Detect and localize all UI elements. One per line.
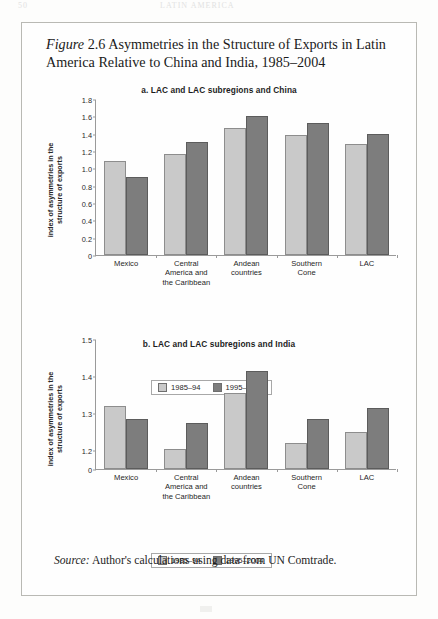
page-bottom-mark	[200, 606, 212, 612]
x-axis-category-label: LAC	[337, 473, 397, 482]
x-tick-mark	[156, 469, 157, 472]
running-head-title: LATIN AMERICA	[160, 1, 235, 10]
chart-b-y-axis-label-line2: structure of exports	[55, 344, 64, 494]
running-head: 50 LATIN AMERICA	[10, 1, 430, 13]
bar-series1	[104, 406, 126, 469]
bar-series2	[307, 123, 329, 255]
chart-b-ytick-mark-zero	[93, 470, 96, 471]
figure-number: 2.6	[88, 36, 106, 52]
chart-a-ytick-mark	[93, 256, 96, 257]
bar-group	[277, 340, 337, 469]
x-axis-category-label: Central America and the Caribbean	[156, 473, 216, 501]
bar-series1	[345, 144, 367, 255]
x-axis-category-label: Mexico	[96, 473, 156, 482]
bar-series2	[186, 142, 208, 255]
x-axis-category-label: Central America and the Caribbean	[156, 259, 216, 287]
bar-series1	[285, 443, 307, 469]
x-axis-category-label: Andean countries	[216, 259, 276, 278]
bar-series2	[246, 371, 268, 469]
bar-series2	[246, 116, 268, 255]
bar-group	[337, 340, 397, 469]
scanned-book-page: 50 LATIN AMERICA Figure 2.6 Asymmetries …	[0, 0, 438, 619]
bar-series2	[367, 408, 389, 469]
x-tick-mark	[216, 255, 217, 258]
bar-series2	[126, 177, 148, 255]
chart-a-title: a. LAC and LAC subregions and China	[22, 85, 416, 95]
chart-a-y-axis-label-line1: index of asymmetries in the	[46, 115, 55, 265]
x-tick-mark	[337, 469, 338, 472]
bar-series1	[345, 432, 367, 469]
chart-b-y-axis-label: index of asymmetries in the structure of…	[46, 344, 64, 494]
bar-group	[96, 340, 156, 469]
x-axis-category-label: LAC	[337, 259, 397, 268]
x-tick-mark	[156, 255, 157, 258]
bar-series2	[307, 419, 329, 469]
bar-series2	[186, 423, 208, 469]
bar-group	[96, 100, 156, 255]
x-axis-category-label: Andean countries	[216, 473, 276, 492]
bar-group	[216, 100, 276, 255]
chart-a-y-axis-label: index of asymmetries in the structure of…	[46, 115, 64, 265]
x-tick-mark	[397, 469, 398, 472]
bar-series2	[367, 134, 389, 255]
bar-series2	[126, 419, 148, 469]
bar-series1	[224, 128, 246, 255]
figure-box: Figure 2.6 Asymmetries in the Structure …	[21, 22, 417, 596]
page-folio-number: 50	[18, 1, 28, 10]
figure-caption: Figure 2.6 Asymmetries in the Structure …	[46, 35, 396, 71]
bar-group	[277, 100, 337, 255]
chart-b-plot-area: 1.21.31.41.50MexicoCentral America and t…	[95, 340, 396, 470]
x-tick-mark	[397, 255, 398, 258]
x-tick-mark	[277, 255, 278, 258]
x-axis-category-label: Mexico	[96, 259, 156, 268]
bar-group	[156, 340, 216, 469]
chart-b: b. LAC and LAC subregions and India inde…	[22, 326, 416, 556]
bar-group	[216, 340, 276, 469]
x-axis-category-label: Southern Cone	[277, 259, 337, 278]
x-tick-mark	[337, 255, 338, 258]
bar-group	[156, 100, 216, 255]
chart-a-y-axis-label-line2: structure of exports	[55, 115, 64, 265]
chart-b-y-axis-label-line1: index of asymmetries in the	[46, 344, 55, 494]
bar-series1	[164, 154, 186, 255]
bar-series1	[164, 449, 186, 469]
x-tick-mark	[277, 469, 278, 472]
bar-series1	[285, 135, 307, 255]
figure-label: Figure	[46, 36, 84, 52]
source-text: Author's calculations using data from UN…	[92, 554, 337, 567]
bar-group	[337, 100, 397, 255]
bar-series1	[104, 161, 126, 255]
chart-a-plot-area: 00.20.40.60.81.01.21.41.61.8MexicoCentra…	[95, 100, 396, 256]
chart-a: a. LAC and LAC subregions and China inde…	[22, 85, 416, 335]
bar-series1	[224, 393, 246, 469]
source-label: Source:	[54, 554, 90, 567]
x-axis-category-label: Southern Cone	[277, 473, 337, 492]
source-note: Source: Author's calculations using data…	[54, 554, 336, 567]
x-tick-mark	[216, 469, 217, 472]
